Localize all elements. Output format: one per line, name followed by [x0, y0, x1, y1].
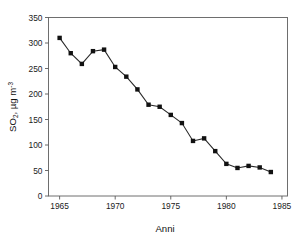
data-point-marker [269, 170, 273, 174]
data-point-marker [202, 136, 206, 140]
y-tick-label: 50 [33, 166, 43, 176]
data-point-marker [135, 87, 139, 91]
data-point-marker [124, 74, 128, 78]
y-axis-title-rest: , µg m [7, 88, 18, 115]
x-tick-label: 1970 [106, 201, 125, 211]
y-tick-label: 0 [38, 191, 43, 201]
data-point-marker [191, 139, 195, 143]
y-axis-title-superscript: -3 [7, 82, 14, 88]
data-point-marker [213, 149, 217, 153]
data-point-marker [102, 47, 106, 51]
svg-text:SO2, µg m-3: SO2, µg m-3 [7, 82, 20, 132]
so2-trend-line-chart: 050100150200250300350 196519701975198019… [0, 0, 300, 242]
data-point-marker [157, 105, 161, 109]
chart-figure: 050100150200250300350 196519701975198019… [0, 0, 300, 242]
y-tick-label: 250 [29, 64, 43, 74]
x-tick-label: 1985 [273, 201, 292, 211]
data-point-marker [180, 121, 184, 125]
y-axis-title: SO2, µg m-3 [7, 82, 20, 132]
y-tick-label: 300 [29, 38, 43, 48]
data-point-marker [235, 166, 239, 170]
y-tick-label: 150 [29, 115, 43, 125]
data-point-marker [113, 65, 117, 69]
y-tick-label: 200 [29, 89, 43, 99]
x-tick-label: 1975 [161, 201, 180, 211]
data-point-marker [146, 103, 150, 107]
x-tick-label: 1965 [50, 201, 69, 211]
y-tick-label: 350 [29, 13, 43, 23]
data-point-marker [69, 51, 73, 55]
data-point-marker [224, 162, 228, 166]
data-point-marker [91, 49, 95, 53]
data-point-marker [246, 164, 250, 168]
x-axis-title: Anni [155, 223, 174, 234]
data-point-marker [80, 62, 84, 66]
data-point-marker [258, 165, 262, 169]
data-point-marker [169, 113, 173, 117]
data-point-marker [57, 36, 61, 40]
chart-background [0, 0, 300, 242]
x-tick-label: 1980 [217, 201, 236, 211]
y-axis-title-base: SO [7, 118, 18, 132]
y-tick-label: 100 [29, 140, 43, 150]
